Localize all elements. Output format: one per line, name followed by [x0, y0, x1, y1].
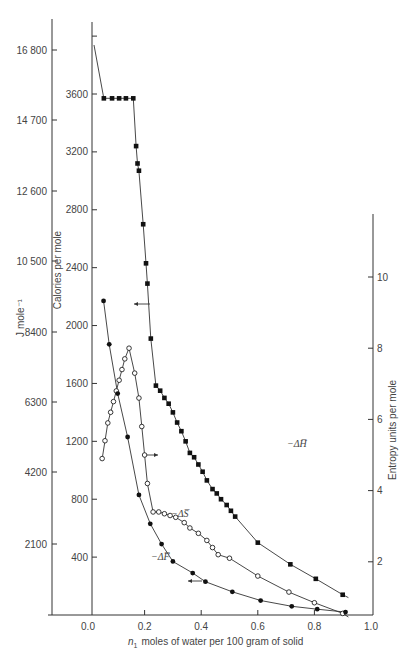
filled-square-marker [196, 462, 201, 467]
cal-axis-tick-label: 3200 [66, 146, 89, 157]
filled-circle-marker [343, 610, 348, 615]
x-axis-tick-label: 0.8 [307, 621, 321, 632]
open-circle-marker [106, 421, 111, 426]
j-axis-tick-label: 6300 [25, 397, 48, 408]
filled-square-marker [183, 439, 188, 444]
df-arrow-left-icon-head [188, 579, 192, 583]
filled-circle-marker [258, 598, 263, 603]
open-circle-marker [151, 510, 156, 515]
filled-square-marker [233, 514, 238, 519]
ds-curve-label: −ΔS̅ [171, 508, 190, 519]
filled-square-marker [219, 497, 224, 502]
x-axis-sub: 1 [134, 642, 138, 649]
open-circle-marker [132, 371, 137, 376]
filled-square-marker [141, 222, 146, 227]
filled-circle-marker [125, 435, 130, 440]
filled-circle-marker [137, 492, 142, 497]
j-axis-title: J mole⁻¹ [15, 298, 26, 336]
x-axis-tick-label: 0.4 [194, 621, 208, 632]
open-circle-marker [287, 590, 292, 595]
filled-circle-marker [289, 604, 294, 609]
filled-circle-marker [107, 342, 112, 347]
filled-square-marker [131, 96, 136, 101]
filled-circle-marker [148, 521, 153, 526]
j-axis-tick-label: 2100 [25, 539, 48, 550]
open-circle-marker [156, 510, 161, 515]
filled-square-marker [110, 96, 115, 101]
j-axis-tick-label: 10 500 [16, 256, 47, 267]
filled-square-marker [135, 161, 140, 166]
open-circle-marker [100, 456, 105, 461]
entropy-axis-tick-label: 8 [377, 343, 383, 354]
filled-square-marker [210, 487, 215, 492]
filled-square-marker [256, 540, 261, 545]
cal-axis-tick-label: 800 [71, 494, 88, 505]
open-circle-marker [227, 556, 232, 561]
cal-axis-tick-label: 2400 [66, 262, 89, 273]
open-circle-marker [210, 545, 215, 550]
j-axis-tick-label: 4200 [25, 467, 48, 478]
open-circle-marker [188, 526, 193, 531]
cal-axis-tick-label: 2000 [66, 320, 89, 331]
filled-square-marker [137, 168, 142, 173]
open-circle-marker [196, 531, 201, 536]
filled-square-marker [102, 96, 107, 101]
open-circle-marker [205, 538, 210, 543]
filled-square-marker [214, 491, 219, 496]
filled-square-marker [288, 562, 293, 567]
filled-square-marker [188, 451, 193, 456]
cal-axis-title: Calories per mole [52, 230, 63, 309]
j-axis-tick-label: 14 700 [16, 115, 47, 126]
cal-axis-tick-label: 1600 [66, 378, 89, 389]
open-circle-marker [216, 552, 221, 557]
filled-square-marker [175, 420, 180, 425]
filled-circle-marker [203, 579, 208, 584]
filled-circle-marker [190, 571, 195, 576]
filled-square-marker [171, 410, 176, 415]
filled-square-marker [154, 383, 159, 388]
filled-circle-marker [171, 559, 176, 564]
open-circle-marker [139, 424, 144, 429]
df-curve-label: −ΔF̅ [151, 551, 171, 562]
open-circle-marker [108, 410, 113, 415]
entropy-axis-title: Entropy units per mole [387, 380, 398, 480]
filled-square-marker [144, 261, 149, 266]
curves [94, 45, 348, 617]
markers [100, 96, 348, 616]
entropy-axis-tick-label: 6 [377, 414, 383, 425]
filled-circle-marker [230, 589, 235, 594]
open-circle-marker [145, 481, 150, 486]
j-axis-tick-label: 12 600 [16, 186, 47, 197]
cal-axis-tick-label: 400 [71, 552, 88, 563]
x-axis-tick-label: 1.0 [364, 621, 378, 632]
curve-filled-square [94, 45, 348, 598]
filled-square-marker [134, 144, 139, 149]
filled-square-marker [158, 388, 163, 393]
cal-axis-tick-label: 1200 [66, 436, 89, 447]
entropy-axis-tick-label: 4 [377, 485, 383, 496]
x-axis-tick-label: 0.0 [81, 621, 95, 632]
filled-square-marker [166, 401, 171, 406]
filled-circle-marker [159, 542, 164, 547]
filled-square-marker [224, 503, 229, 508]
x-axis-tick-label: 0.2 [138, 621, 152, 632]
filled-circle-marker [315, 607, 320, 612]
x-axis-tick-label: 0.6 [251, 621, 265, 632]
filled-circle-marker [115, 391, 120, 396]
open-circle-marker [111, 399, 116, 404]
open-circle-marker [117, 378, 122, 383]
open-circle-marker [103, 438, 108, 443]
filled-square-marker [229, 509, 234, 514]
filled-square-marker [200, 469, 205, 474]
x-axis-title: n1moles of water per 100 gram of solid [128, 636, 303, 649]
filled-square-marker [340, 592, 345, 597]
open-circle-marker [182, 520, 187, 525]
filled-square-marker [314, 577, 319, 582]
entropy-axis-tick-label: 10 [377, 272, 389, 283]
x-axis-title-main: moles of water per 100 gram of solid [141, 636, 303, 647]
filled-circle-marker [101, 299, 106, 304]
curve-filled-circle [104, 301, 346, 612]
open-circle-marker [137, 396, 142, 401]
open-circle-marker [255, 574, 260, 579]
open-circle-marker [312, 600, 317, 605]
